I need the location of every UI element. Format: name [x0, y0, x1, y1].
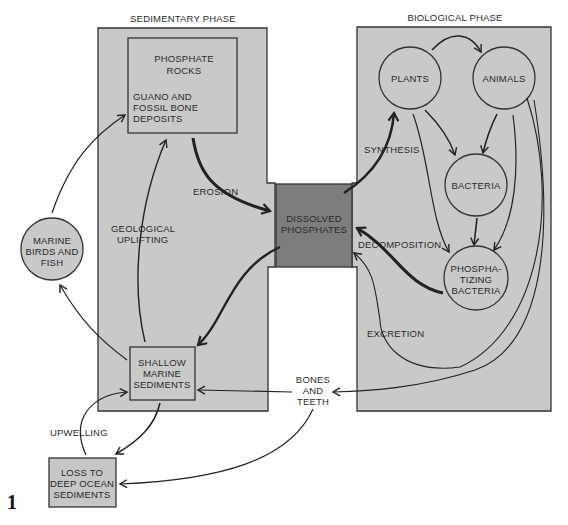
geological-uplifting-label-2: UPLIFTING: [117, 234, 168, 245]
animals-label: ANIMALS: [482, 73, 525, 84]
deep-ocean-label-3: SEDIMENTS: [53, 489, 110, 500]
bacteria-label: BACTERIA: [451, 180, 501, 191]
phosphatizing-label-1: PHOSPHA-: [450, 263, 501, 274]
phosphatizing-label-3: BACTERIA: [451, 285, 501, 296]
shallow-sediments-label-3: SEDIMENTS: [133, 379, 190, 390]
shallow-sediments-label-1: SHALLOW: [138, 357, 186, 368]
figure-number: 1: [7, 491, 17, 513]
phosphate-rocks-title-2: ROCKS: [167, 65, 202, 76]
phosphate-rocks-sub-1: GUANO AND: [133, 91, 192, 102]
decomposition-label: DECOMPOSITION: [358, 239, 441, 250]
dissolved-phosphates-label-2: PHOSPHATES: [281, 224, 347, 235]
marine-birds-label-3: FISH: [41, 257, 63, 268]
deep-ocean-label-1: LOSS TO: [61, 467, 103, 478]
shallow-sediments-label-2: MARINE: [143, 368, 181, 379]
phosphorus-cycle-diagram: SEDIMENTARY PHASE BIOLOGICAL PHASE PHOSP…: [0, 0, 568, 525]
phosphate-rocks-sub-2: FOSSIL BONE: [133, 102, 198, 113]
biological-phase-panel: [352, 27, 551, 411]
plants-label: PLANTS: [391, 73, 429, 84]
geological-uplifting-label-1: GEOLOGICAL: [111, 223, 175, 234]
marine-birds-label-1: MARINE: [33, 235, 71, 246]
dissolved-phosphates-label-1: DISSOLVED: [286, 213, 341, 224]
bones-teeth-label-2: AND: [303, 385, 324, 396]
phosphate-rocks-sub-3: DEPOSITS: [133, 113, 183, 124]
sedimentary-phase-title: SEDIMENTARY PHASE: [130, 13, 236, 24]
phosphatizing-label-2: TIZING: [460, 274, 492, 285]
excretion-label: EXCRETION: [367, 328, 424, 339]
upwelling-label: UPWELLING: [50, 427, 108, 438]
bones-teeth-label-3: TEETH: [297, 396, 329, 407]
phosphate-rocks-title-1: PHOSPHATE: [154, 53, 214, 64]
synthesis-label: SYNTHESIS: [364, 144, 420, 155]
deep-ocean-label-2: DEEP OCEAN: [50, 478, 114, 489]
bones-to-deep-arrow: [120, 409, 313, 484]
marine-birds-label-2: BIRDS AND: [25, 246, 78, 257]
bones-teeth-label-1: BONES: [296, 374, 330, 385]
biological-phase-title: BIOLOGICAL PHASE: [407, 12, 502, 23]
